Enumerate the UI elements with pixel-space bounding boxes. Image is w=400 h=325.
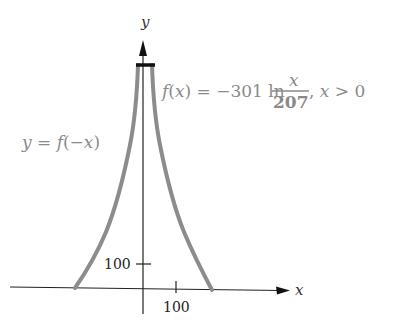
annotation-f-x: f(x) = −301 ln x 207 , x > 0	[160, 70, 365, 112]
curve-f-neg-x	[75, 65, 138, 288]
svg-text:f(x) = −301 ln: f(x) = −301 ln	[160, 81, 285, 101]
svg-text:y = f(−x): y = f(−x)	[21, 132, 100, 152]
chart-figure: 100 x 100 y f(x) = −301 ln x 207 , x > 0…	[0, 0, 400, 325]
annotation-f-neg-x: y = f(−x)	[21, 132, 100, 152]
x-axis-label: x	[295, 281, 304, 299]
x-axis: 100 x	[10, 281, 304, 315]
y-axis-arrow-icon	[139, 40, 147, 56]
x-tick-label: 100	[163, 299, 190, 315]
frac-numerator: x	[289, 70, 299, 90]
y-tick-label: 100	[104, 256, 131, 272]
y-axis-label: y	[140, 13, 150, 31]
svg-text:, x > 0: , x > 0	[309, 81, 365, 101]
x-axis-arrow-icon	[276, 287, 290, 295]
frac-denominator: 207	[273, 92, 309, 112]
